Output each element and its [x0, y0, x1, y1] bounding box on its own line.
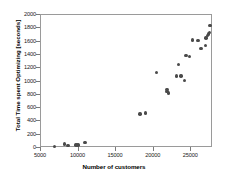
x-tick-mark — [78, 147, 79, 151]
x-tick-label: 10000 — [58, 152, 98, 159]
x-axis-title: Number of customers — [0, 163, 228, 170]
data-point — [188, 55, 191, 58]
y-tick-mark — [36, 94, 40, 95]
y-tick-mark — [36, 81, 40, 82]
x-tick-mark — [190, 147, 191, 151]
data-point — [196, 39, 199, 42]
y-tick-label: 1000 — [24, 78, 36, 84]
y-axis-title: Total Time spent Optimizing [seconds] — [14, 1, 21, 151]
data-point — [83, 141, 86, 144]
y-tick-label: 800 — [27, 91, 36, 97]
y-tick-label: 1400 — [24, 51, 36, 57]
data-point — [53, 145, 56, 148]
x-tick-mark — [115, 147, 116, 151]
data-point — [167, 91, 170, 94]
x-tick-label: 20000 — [133, 152, 173, 159]
y-tick-mark — [36, 41, 40, 42]
y-tick-mark — [36, 107, 40, 108]
y-tick-label: 0 — [33, 144, 36, 150]
data-point — [66, 144, 69, 147]
y-tick-mark — [36, 54, 40, 55]
y-tick-mark — [36, 120, 40, 121]
y-tick-mark — [36, 67, 40, 68]
x-tick-label: 15000 — [95, 152, 135, 159]
y-tick-mark — [36, 27, 40, 28]
data-point — [183, 79, 186, 82]
data-point — [208, 24, 211, 27]
x-tick-mark — [40, 147, 41, 151]
data-point — [177, 63, 180, 66]
data-point — [144, 111, 147, 114]
x-tick-mark — [153, 147, 154, 151]
data-point — [138, 112, 141, 115]
y-tick-label: 200 — [27, 131, 36, 137]
plot-area — [40, 14, 212, 147]
data-point — [175, 74, 178, 77]
y-tick-mark — [36, 14, 40, 15]
y-tick-label: 400 — [27, 117, 36, 123]
data-point — [199, 47, 202, 50]
y-tick-label: 600 — [27, 104, 36, 110]
data-point — [179, 74, 182, 77]
data-point — [208, 31, 211, 34]
x-tick-label: 25000 — [170, 152, 210, 159]
y-tick-label: 1200 — [24, 64, 36, 70]
y-tick-label: 1800 — [24, 24, 36, 30]
y-tick-mark — [36, 134, 40, 135]
data-point — [191, 38, 194, 41]
data-point — [155, 71, 158, 74]
y-tick-label: 1600 — [24, 38, 36, 44]
y-tick-label: 2000 — [24, 11, 36, 17]
scatter-chart: 0200400600800100012001400160018002000 50… — [0, 0, 228, 183]
x-tick-label: 5000 — [20, 152, 60, 159]
data-point — [204, 44, 207, 47]
